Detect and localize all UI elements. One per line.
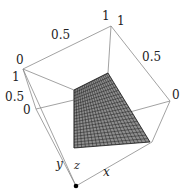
axis-label-y: y xyxy=(56,158,63,170)
surface-mesh xyxy=(74,73,150,148)
origin-dot xyxy=(74,184,79,189)
3d-plot-canvas xyxy=(0,0,186,195)
tick-label-top-right-0.5: 0.5 xyxy=(142,51,161,63)
axis-label-z: z xyxy=(74,160,80,171)
tick-label-left-1: 1 xyxy=(12,71,20,83)
tick-label-left-0.5: 0.5 xyxy=(5,91,24,103)
tick-label-left-0: 0 xyxy=(23,104,31,116)
tick-label-top-right-0: 0 xyxy=(172,89,180,101)
axis-label-x: x xyxy=(103,166,110,178)
tick-label-top-left-1: 1 xyxy=(102,10,110,22)
tick-label-top-right-1: 1 xyxy=(117,15,125,27)
tick-label-top-left-0.5: 0.5 xyxy=(51,29,70,41)
tick-label-top-left-0: 0 xyxy=(16,54,24,66)
